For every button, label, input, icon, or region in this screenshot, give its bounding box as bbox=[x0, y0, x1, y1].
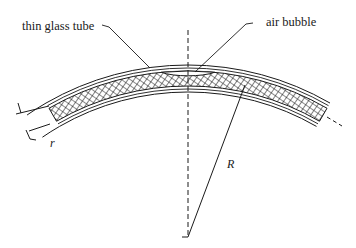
radius-R-label: R bbox=[226, 157, 235, 171]
tube-leader-line bbox=[102, 25, 150, 68]
air-bubble-label: air bubble bbox=[266, 15, 317, 29]
thin-glass-tube-label: thin glass tube bbox=[22, 19, 95, 33]
radius-R-line bbox=[188, 85, 245, 237]
curved-tube-diagram: R r thin glass tube air bubble bbox=[0, 0, 356, 248]
bubble-leader-line bbox=[195, 23, 253, 72]
radius-r-dimension-bottom bbox=[26, 124, 50, 140]
right-radius-dashed bbox=[327, 117, 342, 126]
radius-r-label: r bbox=[50, 136, 55, 150]
